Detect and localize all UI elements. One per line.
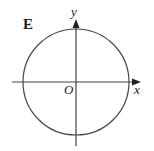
x-axis-label: x bbox=[133, 82, 140, 97]
y-axis-label: y bbox=[69, 4, 77, 19]
panel-label: E bbox=[23, 16, 33, 32]
origin-label: O bbox=[64, 82, 74, 97]
diagram-canvas: E y x O bbox=[0, 0, 154, 151]
y-axis-arrow-icon bbox=[73, 19, 80, 28]
coordinate-diagram: E y x O bbox=[0, 0, 154, 151]
